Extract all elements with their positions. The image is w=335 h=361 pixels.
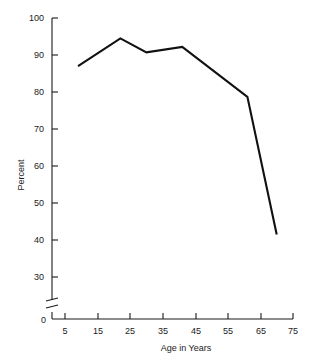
y-tick-label-90: 90 — [34, 50, 44, 60]
x-tick-label-15: 15 — [93, 326, 103, 336]
y-axis-title: Percent — [16, 159, 26, 191]
x-tick-label-55: 55 — [223, 326, 233, 336]
x-axis-title: Age in Years — [161, 343, 212, 353]
y-tick-label-30: 30 — [34, 272, 44, 282]
x-tick-label-25: 25 — [125, 326, 135, 336]
x-tick-label-5: 5 — [62, 326, 67, 336]
chart-container: 100 90 80 70 60 50 40 30 0 Percent 5 15 … — [0, 0, 335, 361]
x-tick-label-45: 45 — [191, 326, 201, 336]
y-tick-label-60: 60 — [34, 161, 44, 171]
y-tick-label-70: 70 — [34, 124, 44, 134]
y-tick-label-40: 40 — [34, 235, 44, 245]
y-tick-label-100: 100 — [29, 13, 44, 23]
y-tick-label-0: 0 — [41, 315, 46, 325]
x-tick-label-65: 65 — [256, 326, 266, 336]
y-tick-label-50: 50 — [34, 198, 44, 208]
x-tick-label-35: 35 — [158, 326, 168, 336]
x-tick-label-75: 75 — [288, 326, 298, 336]
y-tick-label-80: 80 — [34, 87, 44, 97]
line-chart: 100 90 80 70 60 50 40 30 0 Percent 5 15 … — [0, 0, 335, 361]
